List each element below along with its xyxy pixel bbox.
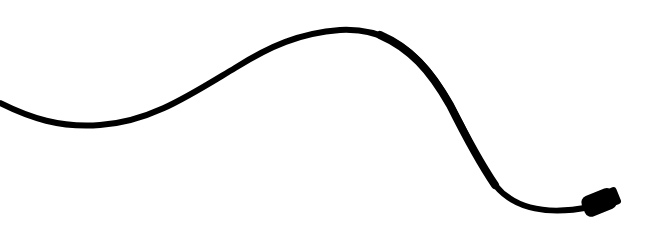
cable-wire [0,30,590,211]
cable-illustration: Black cable with connector plug on white… [0,0,662,233]
connector-plug [579,184,622,219]
cable-icon [0,0,662,233]
cable-wire-thicken [380,35,495,185]
